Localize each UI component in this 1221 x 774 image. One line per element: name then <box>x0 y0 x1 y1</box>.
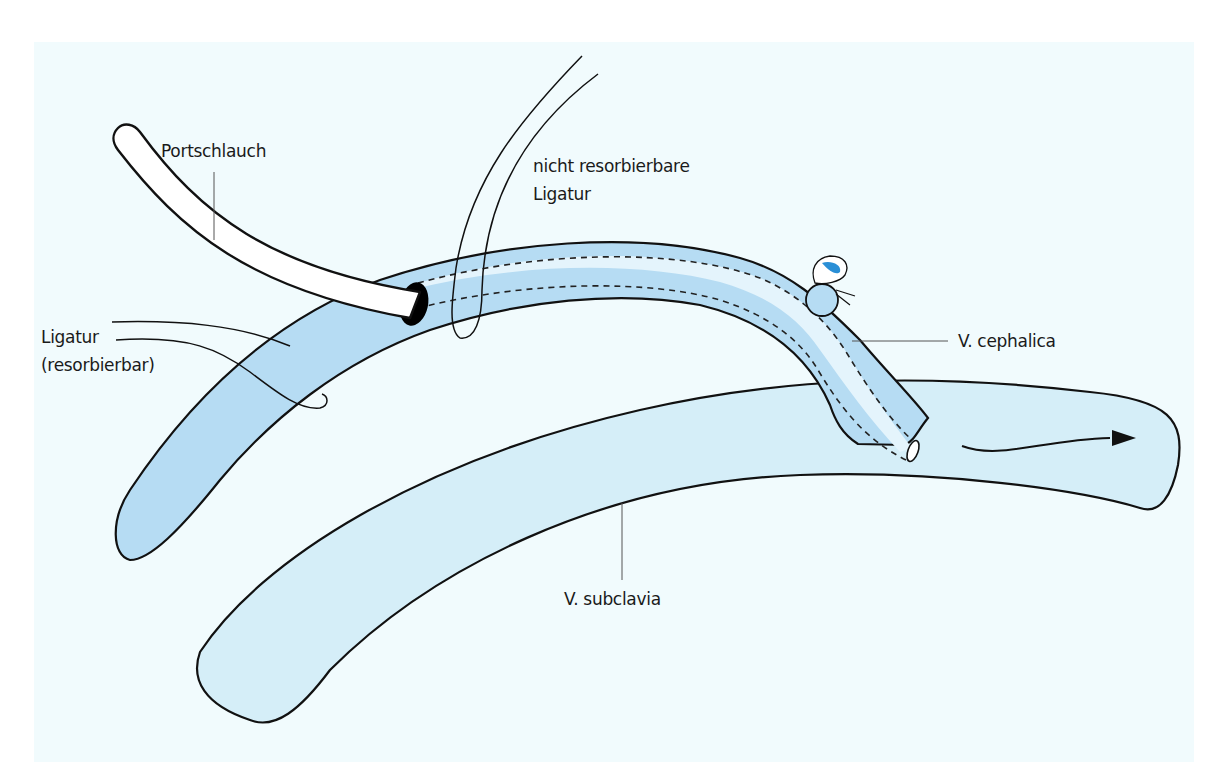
label-ligatur: Ligatur <box>41 326 99 348</box>
label-portschlauch: Portschlauch <box>161 140 266 162</box>
v-subclavia-shape <box>197 380 1179 722</box>
knot-ends <box>836 290 855 305</box>
label-resorbierbar: (resorbierbar) <box>41 354 155 376</box>
portschlauch-tube <box>114 125 421 318</box>
illustration <box>0 0 1221 774</box>
diagram-canvas: Portschlauch nicht resorbierbare Ligatur… <box>0 0 1221 774</box>
label-v-subclavia: V. subclavia <box>564 588 661 610</box>
label-nicht-resorbierbare-ligatur: Ligatur <box>533 183 591 205</box>
label-v-cephalica: V. cephalica <box>958 330 1056 352</box>
vein-stump <box>806 284 838 316</box>
label-nicht-resorbierbare: nicht resorbierbare <box>533 155 690 177</box>
